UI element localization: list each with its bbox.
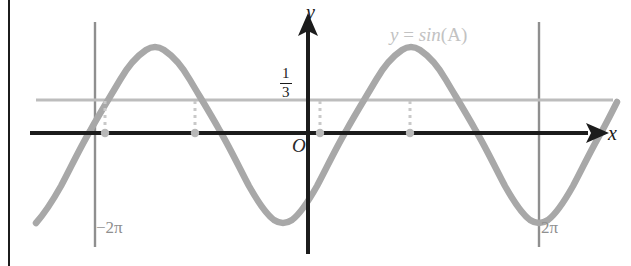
origin-label: O [292,136,306,155]
y-axis-label: y [306,2,315,22]
fraction-denominator: 3 [280,85,292,101]
curve-equation-argument: (A) [441,24,467,45]
tick-label-2pi: 2π [541,219,558,236]
y-value-fraction: 1 3 [280,66,292,101]
sine-graph-figure: y x O y = sin(A) 1 3 −2π 2π [0,0,631,266]
intersection-marker-4 [406,129,414,137]
tick-label-minus-2pi: −2π [96,219,123,236]
intersection-marker-1 [101,129,109,137]
intersection-marker-3 [316,129,324,137]
fraction-numerator: 1 [280,66,292,82]
x-axis-label: x [608,123,617,143]
curve-equation-function: sin [419,24,441,45]
plot-canvas [0,0,631,266]
curve-equation-equals: = [398,24,418,45]
intersection-marker-2 [191,129,199,137]
curve-equation-label: y = sin(A) [390,25,467,44]
